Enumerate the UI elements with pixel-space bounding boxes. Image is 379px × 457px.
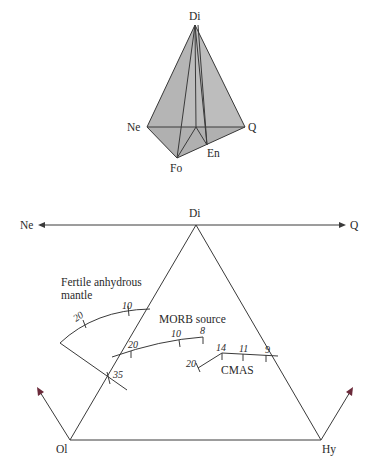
arrow-left-icon (38, 222, 45, 228)
axis-di: Di (189, 207, 201, 219)
vertex-hy: Hy (322, 443, 336, 456)
cmas-tick-9: 9 (265, 344, 270, 355)
cmas-tick-14: 14 (216, 342, 226, 353)
vertex-ol: Ol (56, 443, 68, 455)
vertex-fo: Fo (170, 162, 182, 174)
label-fertile-line2: mantle (61, 289, 92, 301)
vertex-en: En (207, 147, 220, 159)
fertile-tick-10: 10 (122, 300, 132, 311)
morb-tick-8: 8 (200, 325, 205, 336)
axis-ne: Ne (20, 219, 33, 231)
arrow-right-icon (339, 222, 346, 228)
cmas-tick-11: 11 (239, 343, 248, 354)
label-morb: MORB source (159, 313, 226, 325)
phase-diagram: Di Ne Q Fo En Ne Di Q Ol Hy 20 10 35 Fe (0, 0, 379, 457)
cmas-tick-20: 20 (186, 358, 196, 369)
arrow-ol-icon (37, 387, 44, 396)
vertex-q: Q (248, 121, 257, 133)
vertex-ne: Ne (127, 121, 140, 133)
arrow-hy-icon (346, 387, 353, 396)
tetrahedron: Di Ne Q Fo En (127, 10, 257, 174)
label-cmas: CMAS (221, 364, 254, 376)
fertile-tick-35: 35 (112, 369, 123, 380)
morb-tick-10: 10 (171, 328, 181, 339)
axis-q: Q (350, 219, 359, 231)
vertex-di: Di (189, 10, 201, 22)
label-fertile-line1: Fertile anhydrous (61, 276, 142, 289)
projection-triangle: Ne Di Q Ol Hy 20 10 35 Fertile anhydrous… (20, 207, 359, 456)
morb-tick-20: 20 (128, 339, 138, 350)
